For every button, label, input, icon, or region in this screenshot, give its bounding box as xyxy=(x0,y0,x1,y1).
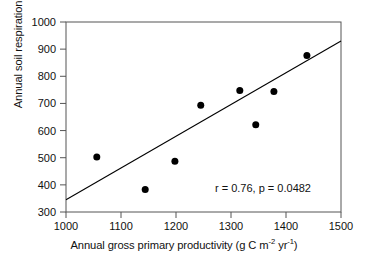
y-tick-label-1: 400 xyxy=(38,179,56,191)
x-tick-label-5: 1500 xyxy=(329,220,353,232)
data-point xyxy=(171,158,178,165)
data-point xyxy=(236,87,243,94)
correlation-annotation: r = 0.76, p = 0.0482 xyxy=(215,182,311,194)
y-tick-label-6: 900 xyxy=(38,43,56,55)
y-tick-label-3: 600 xyxy=(38,125,56,137)
x-axis-title-post: ) xyxy=(294,239,298,251)
x-axis-title-pre: Annual gross primary productivity (g C m xyxy=(70,239,268,251)
x-tick-label-0: 1000 xyxy=(54,220,78,232)
x-tick-label-2: 1200 xyxy=(164,220,188,232)
y-axis-title: Annual soil respiration (g C m-2 yr-1) xyxy=(12,0,24,122)
y-tick-label-2: 500 xyxy=(38,152,56,164)
data-point xyxy=(252,121,259,128)
data-point xyxy=(303,52,310,59)
x-tick-label-1: 1100 xyxy=(109,220,133,232)
y-axis-title-pre: Annual soil respiration (g C m xyxy=(12,0,24,108)
x-axis-title-mid: yr xyxy=(275,239,287,251)
figure-container: 300 400 500 600 700 800 900 1000 1000 11… xyxy=(0,0,368,268)
data-point xyxy=(142,186,149,193)
data-point xyxy=(93,153,100,160)
x-axis-tick-labels: 1000 1100 1200 1300 1400 1500 xyxy=(54,220,353,232)
x-axis-ticks xyxy=(66,212,341,218)
data-point xyxy=(270,88,277,95)
scatter-plot: 300 400 500 600 700 800 900 1000 1000 11… xyxy=(0,0,368,268)
y-tick-label-0: 300 xyxy=(38,206,56,218)
y-tick-label-4: 700 xyxy=(38,97,56,109)
x-tick-label-3: 1300 xyxy=(219,220,243,232)
x-axis-title: Annual gross primary productivity (g C m… xyxy=(0,239,368,251)
x-tick-label-4: 1400 xyxy=(274,220,298,232)
x-axis-title-sup2: -1 xyxy=(287,237,294,246)
data-point xyxy=(197,102,204,109)
y-tick-label-5: 800 xyxy=(38,70,56,82)
y-axis-ticks xyxy=(60,22,66,212)
y-tick-label-7: 1000 xyxy=(32,16,56,28)
y-axis-tick-labels: 300 400 500 600 700 800 900 1000 xyxy=(32,16,56,218)
